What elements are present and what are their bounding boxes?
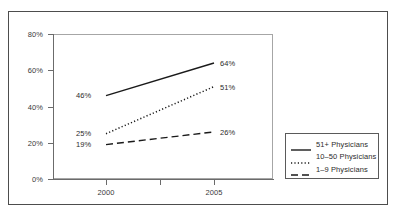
legend-label-51-plus: 51+ Physicians — [316, 140, 368, 149]
series-line-10-50 — [106, 87, 214, 134]
series-line-51-plus — [106, 63, 214, 96]
series-line-1-9 — [106, 132, 214, 145]
legend-swatch-dashed-icon — [291, 165, 311, 173]
point-label-10-50-2000: 25% — [76, 129, 91, 138]
point-label-51plus-2005: 64% — [220, 59, 235, 68]
chart-legend: 51+ Physicians 10–50 Physicians 1–9 Phys… — [285, 133, 379, 179]
legend-swatch-solid-icon — [291, 140, 311, 148]
point-label-1-9-2000: 19% — [76, 140, 91, 149]
point-label-10-50-2005: 51% — [220, 83, 235, 92]
legend-swatch-dotted-icon — [291, 153, 311, 161]
legend-label-1-9: 1–9 Physicians — [316, 165, 368, 174]
legend-item-1-9: 1–9 Physicians — [286, 163, 378, 176]
legend-item-51-plus: 51+ Physicians — [286, 138, 378, 151]
chart-figure: 80% 60% 40% 20% 0% 2000 2005 46% 25% 19%… — [8, 11, 388, 205]
point-label-1-9-2005: 26% — [220, 128, 235, 137]
legend-label-10-50: 10–50 Physicians — [316, 152, 376, 161]
point-label-51plus-2000: 46% — [76, 91, 91, 100]
legend-item-10-50: 10–50 Physicians — [286, 151, 378, 164]
